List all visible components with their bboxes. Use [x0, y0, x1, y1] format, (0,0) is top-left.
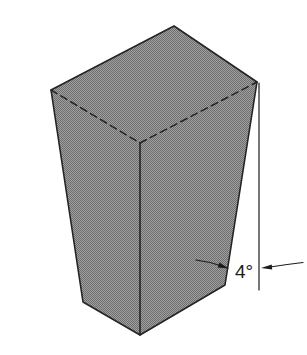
- block-outline: [51, 26, 257, 335]
- figure-canvas: 4°: [0, 0, 307, 355]
- angle-arrow-right-head: [261, 264, 272, 269]
- angle-arrow-right-tail: [270, 263, 303, 268]
- angle-label: 4°: [235, 261, 253, 282]
- figure-container: 4°: [0, 0, 307, 355]
- tapered-block: [51, 26, 257, 335]
